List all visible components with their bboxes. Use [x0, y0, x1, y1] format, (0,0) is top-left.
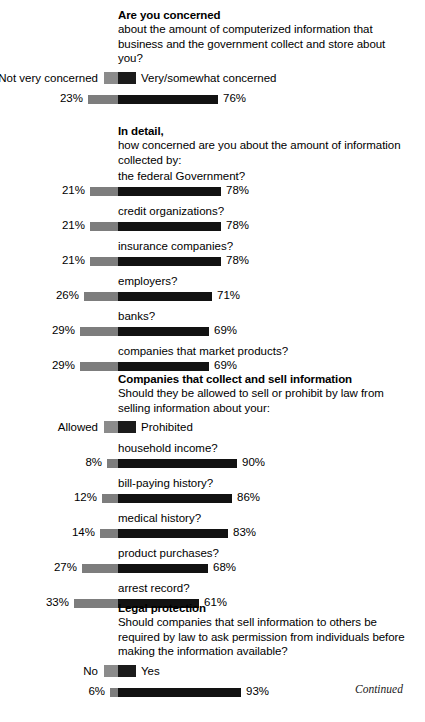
chart-section: Are you concernedabout the amount of com…: [0, 8, 425, 112]
bar-rows: household income?8%90%bill-paying histor…: [0, 441, 425, 616]
section-heading-block: In detail,how concerned are you about th…: [118, 124, 408, 167]
legend-row: NoYes: [0, 663, 425, 679]
bar-value-left: 29%: [0, 358, 75, 372]
bar-row: 26%71%: [0, 289, 425, 305]
bar-segment-right: [118, 459, 237, 468]
bar-value-left: 6%: [0, 684, 105, 698]
continued-note: Continued: [355, 683, 403, 695]
bar-segment-right: [118, 292, 212, 301]
bar-value-left: 21%: [0, 253, 85, 267]
bar-track: 12%86%: [0, 491, 425, 507]
bar-row: 21%78%: [0, 219, 425, 235]
bar-segment-right: [118, 327, 209, 336]
bar-segment-left: [84, 292, 118, 301]
section-title: Companies that collect and sell informat…: [118, 372, 408, 386]
bar-value-right: 68%: [213, 560, 236, 574]
chart-legend: AllowedProhibited: [0, 419, 425, 437]
legend-right-label: Yes: [141, 664, 160, 678]
bar-question-label: household income?: [118, 441, 218, 455]
legend-right-label: Very/somewhat concerned: [141, 71, 277, 85]
bar-segment-right: [118, 564, 208, 573]
bar-row: 14%83%: [0, 526, 425, 542]
bar-value-left: 8%: [0, 455, 102, 469]
chart-page: Are you concernedabout the amount of com…: [0, 0, 425, 722]
bar-value-right: 69%: [214, 323, 237, 337]
legend-swatch-icon: [104, 665, 136, 677]
bar-segment-left: [110, 688, 118, 697]
bar-segment-left: [102, 494, 118, 503]
bar-question-label: employers?: [118, 274, 177, 288]
bar-value-left: 29%: [0, 323, 75, 337]
legend-swatch-icon: [104, 421, 136, 433]
bar-question-label: medical history?: [118, 511, 201, 525]
bar-segment-left: [90, 187, 118, 196]
bar-value-left: 26%: [0, 288, 79, 302]
bar-track: 26%71%: [0, 289, 425, 305]
bar-track: 14%83%: [0, 526, 425, 542]
bar-value-right: 78%: [226, 183, 249, 197]
bar-track: 21%78%: [0, 184, 425, 200]
bar-segment-left: [90, 222, 118, 231]
bar-segment-right: [118, 494, 232, 503]
bar-row: 21%78%: [0, 184, 425, 200]
bar-question-label: product purchases?: [118, 546, 219, 560]
bar-question-label: insurance companies?: [118, 239, 233, 253]
bar-segment-left: [107, 459, 118, 468]
bar-row: 12%86%: [0, 491, 425, 507]
bar-track: 21%78%: [0, 219, 425, 235]
bar-segment-right: [118, 688, 241, 697]
bar-segment-left: [90, 257, 118, 266]
legend-left-label: No: [83, 664, 98, 678]
bar-row: 23%76%: [0, 92, 425, 108]
bar-question-label: bill-paying history?: [118, 476, 213, 490]
bar-rows: 23%76%: [0, 92, 425, 112]
section-title: Legal protection: [118, 601, 408, 615]
bar-track: 27%68%: [0, 561, 425, 577]
bar-value-left: 14%: [0, 525, 95, 539]
bar-segment-right: [118, 222, 221, 231]
legend-left-label: Allowed: [58, 420, 98, 434]
section-subtitle: Should they be allowed to sell or prohib…: [118, 386, 408, 415]
bar-value-right: 83%: [233, 525, 256, 539]
legend-row: AllowedProhibited: [0, 419, 425, 435]
bar-value-right: 93%: [246, 684, 269, 698]
bar-segment-right: [118, 529, 228, 538]
section-title: Are you concerned: [118, 8, 408, 22]
section-subtitle: about the amount of computerized informa…: [118, 22, 408, 66]
section-heading-block: Are you concernedabout the amount of com…: [118, 8, 408, 66]
bar-question-label: the federal Government?: [118, 169, 245, 183]
legend-left-label: Not very concerned: [0, 71, 98, 85]
section-subtitle: Should companies that sell information t…: [118, 615, 408, 659]
bar-question-label: arrest record?: [118, 581, 190, 595]
bar-question-label: companies that market products?: [118, 344, 288, 358]
bar-row: 27%68%: [0, 561, 425, 577]
bar-segment-left: [100, 529, 118, 538]
bar-value-left: 12%: [0, 490, 97, 504]
chart-legend: Not very concernedVery/somewhat concerne…: [0, 70, 425, 88]
bar-track: 21%78%: [0, 254, 425, 270]
bar-segment-right: [118, 187, 221, 196]
bar-value-right: 86%: [237, 490, 260, 504]
chart-legend: NoYes: [0, 663, 425, 681]
bar-segment-right: [118, 362, 209, 371]
bar-value-left: 21%: [0, 218, 85, 232]
bar-value-right: 90%: [242, 455, 265, 469]
bar-track: 23%76%: [0, 92, 425, 108]
chart-section: Companies that collect and sell informat…: [0, 372, 425, 616]
bar-track: 8%90%: [0, 456, 425, 472]
bar-row: 21%78%: [0, 254, 425, 270]
bar-segment-left: [80, 362, 118, 371]
bar-row: 29%69%: [0, 324, 425, 340]
legend-row: Not very concernedVery/somewhat concerne…: [0, 70, 425, 86]
chart-section: In detail,how concerned are you about th…: [0, 124, 425, 379]
bar-value-right: 78%: [226, 253, 249, 267]
bar-segment-left: [80, 327, 118, 336]
bar-track: 29%69%: [0, 324, 425, 340]
legend-swatch-icon: [104, 72, 136, 84]
bar-value-left: 23%: [0, 91, 83, 105]
bar-value-right: 78%: [226, 218, 249, 232]
bar-value-left: 21%: [0, 183, 85, 197]
section-title: In detail,: [118, 124, 408, 138]
bar-segment-left: [88, 95, 118, 104]
bar-question-label: credit organizations?: [118, 204, 224, 218]
